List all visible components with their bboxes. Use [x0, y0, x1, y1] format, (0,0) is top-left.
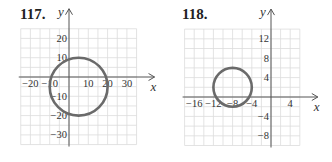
- y-tick-label: −4: [258, 111, 270, 122]
- x-axis-label: x: [150, 79, 157, 94]
- graph-117-plot: xy−20−101020302010−10−20−30: [0, 0, 166, 162]
- x-tick-label: 30: [122, 78, 133, 89]
- x-axis-label: x: [313, 99, 320, 114]
- x-tick-label: 4: [288, 98, 294, 109]
- y-tick-label: 4: [264, 72, 270, 83]
- graph-118-plot: xy−16−12−8−441284−4−8: [166, 0, 332, 162]
- graph-118-panel: 118. xy−16−12−8−441284−4−8: [166, 0, 332, 162]
- y-tick-label: −30: [51, 129, 67, 140]
- x-tick-label: 10: [83, 78, 94, 89]
- y-tick-label: 8: [264, 53, 269, 64]
- y-tick-label: 12: [259, 33, 270, 44]
- graph-117-panel: 117. xy−20−101020302010−10−20−30: [0, 0, 166, 162]
- x-tick-label: −16: [186, 98, 202, 109]
- y-tick-label: 20: [57, 33, 68, 44]
- y-tick-label: −8: [258, 130, 269, 141]
- y-axis-label: y: [56, 4, 64, 19]
- x-tick-label: −20: [22, 78, 38, 89]
- y-axis-label: y: [258, 4, 266, 19]
- grid-lines: [185, 29, 300, 145]
